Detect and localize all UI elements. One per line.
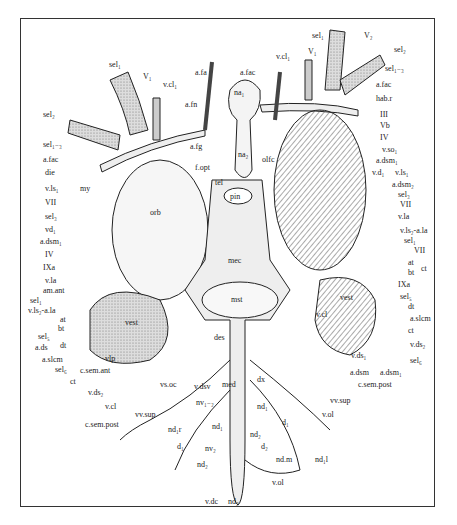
label-v-ls1: v.ls₁ [45,184,59,193]
label-v-la: v.la [45,276,56,285]
vestibule-left [90,292,168,363]
label-v-dsv: v.dsv [194,382,211,391]
label-f-opt: f.opt [195,163,210,172]
label-nd1-b: nd₁ [257,402,268,411]
label-v-cl-center: v.cl [316,310,327,319]
label-a-fn: a.fn [185,100,197,109]
label-nd2-c: nd₂ [228,497,239,506]
label-orb: orb [150,208,161,217]
label-bt-right: bt [408,268,414,277]
label-sel2: sel₂ [43,110,55,119]
sel2-vessel-left [68,120,120,150]
label-sel2-right: sel₂ [394,45,406,54]
label-tel: tel [215,178,223,187]
orbit-right [274,110,366,270]
label-a-ds: a.ds [35,343,48,352]
label-c-sem-post: c.sem.post [85,420,119,429]
label-sel1-3: sel₁₋₃ [43,140,62,149]
label-vii-right-2: VII [414,246,425,255]
label-ct: ct [70,377,76,386]
label-ixa: IXa [43,263,55,272]
label-v2-right: V₂ [364,31,373,40]
label-nd2-a: nd₂ [250,430,261,439]
label-v-cl1-right: v.cl₁ [276,52,290,61]
label-sel5-right: sel₅ [400,292,412,301]
label-v-cl: v.cl [105,402,116,411]
label-v-ds2: v.ds₂ [88,388,103,397]
label-a-fa: a.fa [195,68,207,77]
label-sel1-left: sel₁ [30,296,42,305]
label-sel3-right: sel₃ [398,190,410,199]
label-v-ls2-a-la: v.ls₂-a.la [28,306,56,315]
label-vest: vest [125,318,138,327]
label-pin: pin [230,192,240,201]
sel2-vessel-right [340,55,385,95]
label-nd1-r: nd₁r [168,425,181,434]
label-nd1-a: nd₁ [212,422,223,431]
label-v-ls2-a-la-right: v.ls₂-a.la [400,226,428,235]
label-vv-sup-right: vv.sup [330,396,351,405]
label-mst: mst [231,295,243,304]
label-vii-right: VII [400,200,411,209]
label-v-ls1-right: v.ls₁ [395,168,409,177]
v-cl1-vessel-right [305,60,312,100]
label-a-slcm-right: a.slcm [410,314,431,323]
label-hab-r: hab.r [376,94,392,103]
label-a-fg: a.fg [190,142,202,151]
label-at: at [60,315,66,324]
label-vv-sup: vv.sup [135,410,156,419]
label-ct-right: ct [421,264,427,273]
label-vii: VII [45,198,56,207]
label-iv: IV [45,250,53,259]
label-sel1-right-2: sel₁ [404,236,416,245]
label-sel1-right: sel₁ [312,31,324,40]
label-a-fac-right: a.fac [376,80,391,89]
label-na2: na₂ [238,150,248,159]
label-bt: bt [58,324,64,333]
label-c-sem-ant: c.sem.ant [80,366,110,375]
label-vd1: vd₁ [45,225,56,234]
label-nv2: nv₂ [205,444,216,453]
label-mec: mec [228,256,241,265]
label-nd2-b: nd₂ [197,460,208,469]
label-sel1-3-right: sel₁₋₃ [385,64,404,73]
label-med: med [222,380,236,389]
label-vs-oc: vs.oc [160,380,177,389]
label-vb: Vb [380,121,390,130]
label-v-ds2-right: v.ds₂ [410,340,425,349]
label-dx: dx [257,375,265,384]
label-v-cl1: v.cl₁ [163,80,177,89]
label-v-ol-right: v.ol [322,410,334,419]
label-v1-right: V₁ [308,47,317,56]
label-a-slcm: a.slcm [42,355,63,364]
label-my: my [80,184,90,193]
label-d2: d₂ [261,442,268,451]
label-des: des [214,333,225,342]
label-v1: V₁ [143,72,152,81]
label-a-dsm1-right: a.dsm₁ [376,156,398,165]
label-v-ds1-right: v.ds₁ [351,351,366,360]
label-olfc: olfc [262,155,274,164]
label-sel6: sel₆ [55,365,67,374]
label-v-dc: v.dc [205,497,218,506]
label-a-fac-top: a.fac [240,68,255,77]
label-dt-right: dt [408,302,414,311]
label-sel3: sel₃ [45,212,57,221]
label-am-ant: am.ant [43,286,65,295]
label-a-dsm-right: a.dsm [350,368,369,377]
sel1-vessel-left [110,72,148,135]
label-iii: III [380,110,388,119]
label-sel1: sel₁ [109,60,121,69]
label-a-dsm1: a.dsm₁ [40,237,62,246]
label-nd1-l: nd₁l [315,455,328,464]
label-sel5: sel₅ [38,332,50,341]
label-die: die [45,168,55,177]
label-d1-a: d₁ [177,442,184,451]
label-v-so1: v.so₁ [382,145,397,154]
label-a-dsm2: a.dsm₂ [392,180,414,189]
lower-right-branch [250,360,330,430]
v-cl1-vessel-left [153,98,160,140]
label-at-right: at [408,258,414,267]
label-vlp: vlp [105,354,115,363]
label-ixa-right: IXa [398,280,410,289]
